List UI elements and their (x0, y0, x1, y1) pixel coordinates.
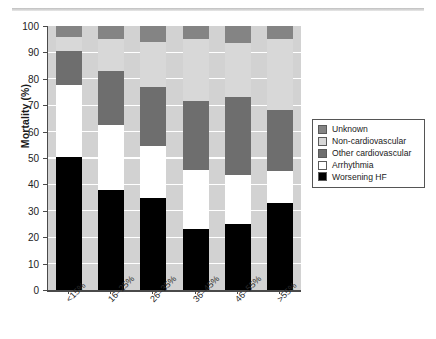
chart-legend: Unknown Non-cardiovascular Other cardiov… (312, 119, 425, 188)
bar-segment-other-cardiovascular (183, 101, 209, 170)
bar-segment-non-cardiovascular (183, 39, 209, 101)
y-axis-label: 50 (28, 153, 39, 164)
bar-segment-arrhythmia (267, 171, 293, 203)
y-axis-label: 80 (28, 73, 39, 84)
bar-segment-worsening-hf (98, 190, 124, 290)
legend-label: Worsening HF (332, 173, 387, 182)
bar-segment-non-cardiovascular (98, 39, 124, 71)
legend-swatch-icon (318, 172, 327, 181)
legend-item-non-cardiovascular: Non-cardiovascular (318, 136, 420, 147)
bar-segment-non-cardiovascular (56, 37, 82, 52)
y-axis-label: 60 (28, 126, 39, 137)
y-axis-label: 70 (28, 100, 39, 111)
bar-column (183, 26, 209, 290)
legend-label: Other cardiovascular (332, 149, 411, 158)
bar-segment-arrhythmia (225, 175, 251, 224)
y-axis-label: 10 (28, 258, 39, 269)
bar-segment-worsening-hf (267, 203, 293, 290)
y-axis-label: 30 (28, 205, 39, 216)
bar-segment-non-cardiovascular (267, 39, 293, 110)
bar-segment-worsening-hf (183, 229, 209, 290)
y-axis-label: 90 (28, 47, 39, 58)
bar-column (140, 26, 166, 290)
legend-item-other-cardiovascular: Other cardiovascular (318, 148, 420, 159)
bar-segment-unknown (140, 26, 166, 42)
legend-label: Unknown (332, 125, 368, 134)
plot-area: 0102030405060708090100 (47, 26, 301, 290)
bar-segment-arrhythmia (140, 146, 166, 197)
bar-segment-unknown (56, 26, 82, 37)
bar-segment-unknown (98, 26, 124, 39)
bar-column (56, 26, 82, 290)
legend-item-worsening-hf: Worsening HF (318, 171, 420, 182)
header-divider (12, 8, 424, 11)
bar-segment-non-cardiovascular (140, 42, 166, 87)
y-axis-label: 100 (22, 21, 39, 32)
bar-segment-worsening-hf (56, 157, 82, 290)
bar-segment-other-cardiovascular (98, 71, 124, 125)
bar-segment-other-cardiovascular (56, 51, 82, 85)
bar-segment-unknown (225, 26, 251, 43)
bar-segment-unknown (267, 26, 293, 39)
y-axis-label: 0 (33, 285, 39, 296)
legend-swatch-icon (318, 125, 327, 134)
bar-column (267, 26, 293, 290)
bar-segment-non-cardiovascular (225, 43, 251, 97)
legend-swatch-icon (318, 149, 327, 158)
y-axis-label: 40 (28, 179, 39, 190)
legend-swatch-icon (318, 161, 327, 170)
bar-segment-arrhythmia (98, 125, 124, 190)
x-axis: <15%16–25%26–35%36–45%46–55%>55% (47, 290, 301, 292)
chart-figure: Mortality (%) 0102030405060708090100 <15… (0, 0, 436, 339)
legend-label: Arrhythmia (332, 161, 374, 170)
bar-segment-arrhythmia (183, 170, 209, 229)
bar-segment-worsening-hf (225, 224, 251, 290)
legend-item-arrhythmia: Arrhythmia (318, 159, 420, 170)
legend-swatch-icon (318, 137, 327, 146)
bar-segment-unknown (183, 26, 209, 39)
legend-item-unknown: Unknown (318, 124, 420, 135)
bar-segment-arrhythmia (56, 85, 82, 156)
bar-segment-other-cardiovascular (267, 110, 293, 171)
bar-segment-other-cardiovascular (140, 87, 166, 146)
bar-column (98, 26, 124, 290)
bar-column (225, 26, 251, 290)
bar-segment-worsening-hf (140, 198, 166, 290)
y-axis-label: 20 (28, 232, 39, 243)
bars-layer (48, 26, 301, 290)
legend-label: Non-cardiovascular (332, 137, 406, 146)
bar-segment-other-cardiovascular (225, 97, 251, 175)
